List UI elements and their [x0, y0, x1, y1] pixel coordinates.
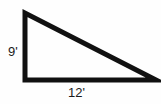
vertical-leg-label: 9' — [8, 45, 18, 58]
triangle-figure: 9' 12' — [0, 0, 161, 104]
horizontal-leg-label: 12' — [68, 86, 85, 99]
triangle-outline — [25, 13, 156, 80]
